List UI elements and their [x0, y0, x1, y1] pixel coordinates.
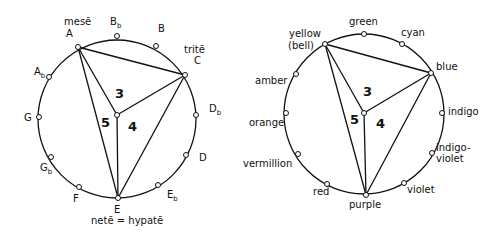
label-violet-part: violet: [436, 153, 464, 164]
node-Eb: [156, 183, 161, 188]
diagram-canvas: mesē A Bb B tritē C Db D Eb E netē = hyp…: [0, 0, 504, 238]
edge-yellow-center: [325, 44, 364, 113]
region-label-5: 5: [350, 112, 359, 127]
node-purple: [364, 193, 369, 198]
node-G: [37, 115, 42, 120]
label-A: A: [66, 28, 73, 39]
node-Ab: [47, 75, 52, 80]
label-red: red: [313, 186, 329, 197]
label-F: F: [73, 193, 79, 204]
label-G: G: [24, 112, 32, 123]
label-B: B: [158, 23, 165, 34]
node-indigo-violet: [430, 151, 435, 156]
edge-A-C: [78, 47, 185, 75]
region-label-5: 5: [101, 115, 110, 130]
label-trite: tritē: [184, 44, 205, 55]
label-indigo: indigo: [448, 106, 479, 117]
edge-center-purple: [364, 113, 366, 195]
node-D: [184, 153, 189, 158]
label-orange: orange: [249, 117, 284, 128]
edge-A-center: [78, 47, 117, 115]
edge-C-E: [118, 75, 185, 198]
edge-A-E: [78, 47, 118, 198]
region-label-4: 4: [128, 119, 137, 134]
region-label-4: 4: [376, 116, 385, 131]
label-green: green: [349, 16, 378, 27]
node-blue: [429, 71, 434, 76]
node-Bb: [115, 34, 120, 39]
label-Db: Db: [209, 103, 222, 117]
label-amber: amber: [255, 75, 288, 86]
label-purple: purple: [349, 199, 381, 210]
label-indigo-dash: indigo-: [436, 142, 471, 153]
node-cyan: [400, 42, 405, 47]
node-F: [77, 185, 82, 190]
pitch-circle-diagram: mesē A Bb B tritē C Db D Eb E netē = hyp…: [24, 16, 222, 226]
region-label-3: 3: [363, 84, 372, 99]
color-circle-diagram: yellow (bell) green cyan blue indigo ind…: [243, 16, 479, 210]
node-center: [115, 113, 120, 118]
label-Gb: Gb: [40, 162, 53, 176]
label-mese: mesē: [64, 16, 91, 27]
node-A: [76, 45, 81, 50]
node-indigo: [440, 111, 445, 116]
node-violet: [402, 181, 407, 186]
label-D: D: [199, 152, 207, 163]
node-yellow: [323, 42, 328, 47]
label-blue: blue: [436, 61, 458, 72]
node-Gb: [49, 155, 54, 160]
label-bell: (bell): [288, 40, 314, 51]
label-violet: violet: [407, 184, 435, 195]
edge-blue-purple: [366, 73, 431, 195]
label-yellow: yellow: [289, 28, 321, 39]
label-cyan: cyan: [401, 27, 425, 38]
node-center: [362, 111, 367, 116]
label-C: C: [194, 55, 201, 66]
node-Db: [194, 113, 199, 118]
edge-yellow-purple: [325, 44, 366, 195]
label-Ab: Ab: [34, 66, 46, 80]
node-amber: [294, 72, 299, 77]
node-orange: [284, 111, 289, 116]
label-E: E: [114, 204, 120, 215]
edge-center-E: [117, 115, 118, 198]
edge-yellow-blue: [325, 44, 431, 73]
node-E: [116, 196, 121, 201]
region-label-3: 3: [115, 86, 124, 101]
node-green: [362, 32, 367, 37]
label-nete-hypate: netē = hypatē: [91, 215, 163, 226]
node-vermillion: [296, 152, 301, 157]
node-B: [154, 44, 159, 49]
node-C: [183, 73, 188, 78]
label-Eb: Eb: [167, 189, 178, 203]
label-vermillion: vermillion: [243, 158, 292, 169]
label-Bb: Bb: [110, 16, 122, 30]
